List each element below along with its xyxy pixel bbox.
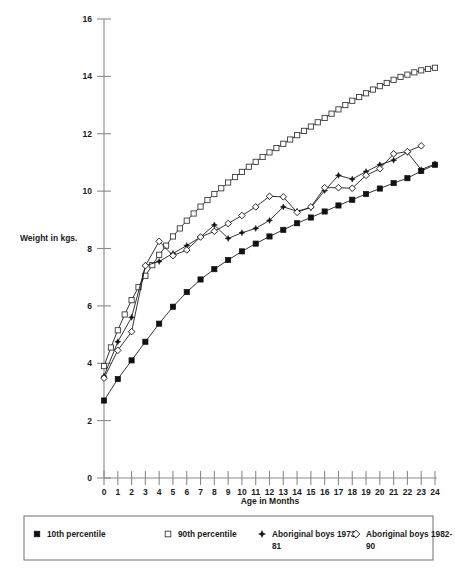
chart-page: 0246810121416 01234567891011121314151617…	[0, 0, 455, 568]
x-tick-label: 17	[334, 487, 344, 497]
data-point-marker	[308, 215, 313, 220]
data-point-marker	[34, 531, 40, 537]
chart-canvas: 0246810121416 01234567891011121314151617…	[0, 0, 455, 568]
legend-item-0[interactable]: 10th percentile	[34, 529, 106, 539]
data-point-marker	[391, 77, 396, 82]
data-point-marker	[357, 94, 362, 99]
data-point-marker	[398, 74, 403, 79]
data-point-marker	[377, 186, 382, 191]
x-tick-label: 21	[389, 487, 399, 497]
x-tick-label: 7	[198, 487, 203, 497]
data-point-marker	[129, 314, 135, 320]
legend-item-3[interactable]: Aboriginal boys 1982-90	[352, 529, 452, 551]
data-point-marker	[239, 249, 244, 254]
data-point-marker	[101, 364, 106, 369]
data-point-marker	[108, 345, 113, 350]
data-point-marker	[412, 70, 417, 75]
data-point-marker	[143, 339, 148, 344]
data-point-marker	[322, 115, 327, 120]
data-point-marker	[288, 137, 293, 142]
legend-item-1[interactable]: 90th percentile	[165, 529, 237, 539]
data-point-marker	[426, 66, 431, 71]
y-tick-label: 4	[87, 358, 92, 368]
data-point-marker	[384, 80, 389, 85]
data-point-marker	[156, 258, 162, 264]
legend-label: Aboriginal boys 1973-	[272, 529, 358, 539]
legend-item-2[interactable]: Aboriginal boys 1973-81	[259, 529, 359, 551]
data-point-marker	[370, 87, 375, 92]
data-point-marker	[419, 68, 424, 73]
data-point-marker	[170, 304, 175, 309]
legend-label: 90th percentile	[178, 529, 237, 539]
data-point-marker	[246, 164, 251, 169]
data-point-marker	[211, 228, 218, 235]
data-point-marker	[350, 98, 355, 103]
data-point-marker	[101, 398, 106, 403]
data-point-marker	[377, 84, 382, 89]
data-point-marker	[232, 174, 237, 179]
data-point-marker	[322, 209, 327, 214]
x-tick-label: 9	[226, 487, 231, 497]
legend-label: Aboriginal boys 1982-	[366, 529, 452, 539]
data-point-marker	[274, 145, 279, 150]
data-point-marker	[335, 184, 342, 191]
data-point-marker	[336, 107, 341, 112]
x-tick-label: 18	[348, 487, 358, 497]
data-point-marker	[157, 252, 162, 257]
data-point-marker	[363, 91, 368, 96]
data-point-marker	[253, 241, 258, 246]
data-point-marker	[418, 142, 425, 149]
y-axis-tick-labels: 0246810121416	[83, 14, 93, 483]
data-point-marker	[177, 226, 182, 231]
legend: 10th percentile90th percentileAboriginal…	[34, 529, 452, 551]
data-point-marker	[184, 218, 189, 223]
y-tick-label: 8	[87, 244, 92, 254]
data-point-marker	[315, 120, 320, 125]
data-point-marker	[184, 290, 189, 295]
data-point-marker	[259, 531, 266, 538]
x-tick-label: 1	[115, 487, 120, 497]
data-point-marker	[212, 191, 217, 196]
data-point-marker	[308, 124, 313, 129]
x-tick-label: 5	[171, 487, 176, 497]
data-point-marker	[170, 234, 175, 239]
data-point-marker	[260, 154, 265, 159]
data-point-marker	[267, 234, 272, 239]
y-axis-title: Weight in kgs.	[20, 233, 77, 243]
x-tick-label: 2	[129, 487, 134, 497]
data-point-marker	[226, 180, 231, 185]
y-tick-label: 6	[87, 301, 92, 311]
data-point-marker	[239, 169, 244, 174]
data-series-layer	[101, 65, 438, 403]
data-point-marker	[122, 312, 127, 317]
y-tick-label: 0	[87, 473, 92, 483]
x-tick-label: 6	[184, 487, 189, 497]
data-point-marker	[294, 221, 299, 226]
data-point-marker	[405, 176, 410, 181]
data-point-marker	[129, 298, 134, 303]
data-point-marker	[226, 257, 231, 262]
data-point-marker	[219, 186, 224, 191]
data-point-marker	[343, 102, 348, 107]
legend-label-line2: 90	[366, 541, 376, 551]
data-point-marker	[391, 157, 397, 163]
series-line	[104, 146, 421, 378]
y-tick-label: 10	[83, 186, 93, 196]
legend-label-line2: 81	[272, 541, 282, 551]
x-tick-label: 22	[403, 487, 413, 497]
data-point-marker	[157, 321, 162, 326]
data-point-marker	[198, 204, 203, 209]
data-point-marker	[239, 212, 246, 219]
legend-label: 10th percentile	[47, 529, 106, 539]
x-tick-label: 4	[157, 487, 162, 497]
data-point-marker	[198, 277, 203, 282]
data-point-marker	[128, 328, 135, 335]
data-point-marker	[329, 111, 334, 116]
x-tick-label: 20	[375, 487, 385, 497]
data-point-marker	[391, 180, 396, 185]
x-tick-label: 3	[143, 487, 148, 497]
data-point-marker	[205, 197, 210, 202]
x-tick-label: 16	[320, 487, 330, 497]
data-point-marker	[301, 128, 306, 133]
data-point-marker	[142, 262, 149, 269]
